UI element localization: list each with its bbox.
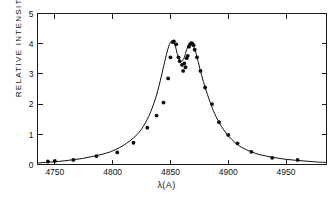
x-tick-label: 4950 [277,167,296,177]
data-point [236,141,240,145]
profile-curve [38,41,327,163]
data-point [162,101,166,105]
data-point [178,59,182,63]
x-tick-label: 4850 [161,167,180,177]
data-point [155,114,159,118]
spectrum-figure: 47504800485049004950 012345 λ(A) RELATIV… [0,0,333,200]
data-point [166,77,170,81]
y-tick-label: 5 [29,9,34,19]
data-point [199,69,203,73]
plot-canvas: 47504800485049004950 012345 [0,0,333,200]
data-point [172,39,176,43]
data-point [195,55,199,59]
data-point [181,69,185,73]
data-points [46,39,300,163]
x-tick-labels: 47504800485049004950 [45,167,295,177]
data-point [270,156,274,160]
axis-ticks [38,14,327,165]
x-tick-label: 4900 [219,167,238,177]
y-tick-label: 0 [29,160,34,170]
data-point [203,86,207,90]
fitted-curve [38,41,327,163]
data-point [296,158,300,162]
data-point [53,159,57,163]
data-point [217,120,221,124]
y-tick-labels: 012345 [29,9,34,170]
data-point [192,43,196,47]
data-point [115,151,119,155]
y-tick-label: 1 [29,130,34,140]
y-tick-label: 4 [29,39,34,49]
y-tick-label: 3 [29,69,34,79]
data-point [71,158,75,162]
y-tick-label: 2 [29,99,34,109]
data-point [177,55,181,59]
y-axis-title: RELATIVE INTENSITY [14,0,23,115]
data-point [174,42,178,46]
data-point [95,154,99,158]
data-point [145,126,149,130]
data-point [193,48,197,52]
x-tick-label: 4750 [45,167,64,177]
data-point [186,54,190,58]
data-point [184,65,188,69]
data-point [182,61,186,65]
x-axis-title: λ(A) [0,180,333,190]
data-point [132,141,136,145]
data-point [210,102,214,106]
data-point [46,160,50,164]
x-tick-label: 4800 [103,167,122,177]
axes-rectangle [38,14,327,165]
plot-frame [38,14,327,165]
data-point [249,150,253,154]
data-point [169,55,173,59]
data-point [226,133,230,137]
